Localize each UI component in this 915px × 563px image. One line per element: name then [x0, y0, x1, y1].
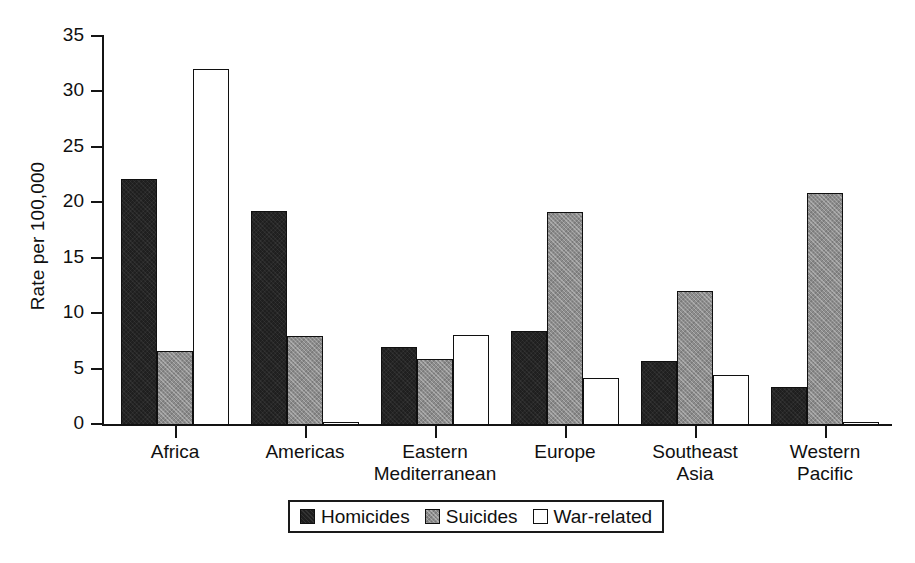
legend-entry-war-related: War-related: [533, 506, 653, 528]
bar-homicides-europe: [511, 331, 547, 425]
y-axis-tick-label: 15: [63, 246, 84, 268]
legend-label-homicides: Homicides: [321, 506, 410, 528]
bar-homicides-africa: [121, 179, 157, 425]
x-axis-label-western-pacific: WesternPacific: [750, 441, 900, 485]
y-axis-tick: 10: [91, 312, 102, 314]
bar-homicides-eastern-mediterranean: [381, 347, 417, 425]
y-axis-tick-label: 0: [73, 412, 84, 434]
y-axis-tick-label: 25: [63, 135, 84, 157]
bar-suicides-eastern-mediterranean: [417, 359, 453, 426]
x-axis-label-line1: Africa: [151, 441, 200, 462]
chart-legend: HomicidesSuicidesWar-related: [288, 500, 664, 533]
legend-swatch-homicides: [300, 509, 315, 524]
legend-entry-suicides: Suicides: [425, 506, 518, 528]
x-axis-label-line1: Europe: [534, 441, 595, 462]
x-axis-label-line2: Pacific: [750, 463, 900, 485]
bar-war-related-western-pacific: [843, 422, 879, 425]
bar-war-related-southeast-asia: [713, 375, 749, 425]
bar-war-related-eastern-mediterranean: [453, 335, 489, 425]
y-axis-tick: 20: [91, 201, 102, 203]
y-axis-tick-label: 20: [63, 190, 84, 212]
x-axis-label-line1: Southeast: [652, 441, 738, 462]
bar-homicides-southeast-asia: [641, 361, 677, 425]
x-axis-label-line1: Americas: [265, 441, 344, 462]
legend-entry-homicides: Homicides: [300, 506, 410, 528]
x-axis-label-southeast-asia: SoutheastAsia: [620, 441, 770, 485]
legend-label-suicides: Suicides: [446, 506, 518, 528]
x-axis-label-africa: Africa: [100, 441, 250, 463]
bar-suicides-western-pacific: [807, 193, 843, 425]
y-axis-tick-label: 35: [63, 24, 84, 46]
x-axis-label-line1: Eastern: [402, 441, 467, 462]
x-axis-label-line1: Western: [790, 441, 860, 462]
x-axis-tick: [695, 426, 697, 438]
bar-suicides-southeast-asia: [677, 291, 713, 425]
x-axis-tick: [175, 426, 177, 438]
x-axis-label-americas: Americas: [230, 441, 380, 463]
legend-label-war-related: War-related: [554, 506, 653, 528]
x-axis-label-europe: Europe: [490, 441, 640, 463]
y-axis-tick: 15: [91, 257, 102, 259]
x-axis-label-line2: Asia: [620, 463, 770, 485]
y-axis-tick: 0: [91, 423, 102, 425]
x-axis-tick: [825, 426, 827, 438]
bar-homicides-western-pacific: [771, 387, 807, 425]
y-axis-title: Rate per 100,000: [27, 136, 49, 336]
y-axis-tick: 35: [91, 35, 102, 37]
plot-area: 05101520253035: [102, 37, 892, 425]
y-axis-tick: 30: [91, 90, 102, 92]
x-axis-tick: [305, 426, 307, 438]
y-axis-tick-label: 10: [63, 301, 84, 323]
bar-war-related-africa: [193, 69, 229, 425]
y-axis-tick: 25: [91, 146, 102, 148]
bar-suicides-americas: [287, 336, 323, 425]
bar-war-related-americas: [323, 422, 359, 425]
x-axis-tick: [435, 426, 437, 438]
legend-swatch-suicides: [425, 509, 440, 524]
y-axis-tick: 5: [91, 368, 102, 370]
bar-suicides-europe: [547, 212, 583, 425]
x-axis-label-line2: Mediterranean: [360, 463, 510, 485]
x-axis-tick: [565, 426, 567, 438]
x-axis-label-eastern-mediterranean: EasternMediterranean: [360, 441, 510, 485]
bar-war-related-europe: [583, 378, 619, 425]
bar-homicides-americas: [251, 211, 287, 425]
bar-chart-figure: Rate per 100,000 05101520253035 AfricaAm…: [0, 0, 915, 563]
legend-swatch-war-related: [533, 509, 548, 524]
y-axis-tick-label: 30: [63, 79, 84, 101]
y-axis-tick-label: 5: [73, 357, 84, 379]
bar-suicides-africa: [157, 351, 193, 425]
